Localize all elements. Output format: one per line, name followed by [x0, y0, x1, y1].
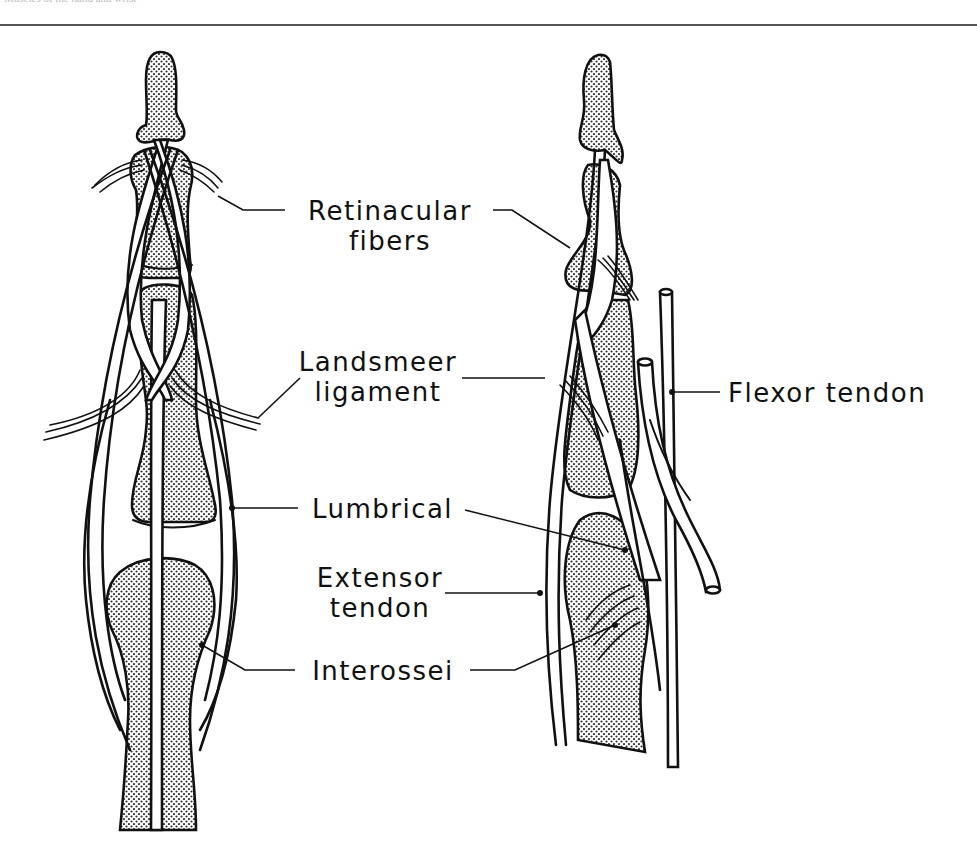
- label-extensor-line1: Extensor: [316, 563, 444, 593]
- label-extensor-tendon: Extensor tendon: [316, 563, 444, 623]
- label-landsmeer-line2: ligament: [298, 377, 458, 407]
- label-retinacular-fibers: Retinacular fibers: [290, 196, 490, 256]
- lateral-finger: [546, 55, 720, 767]
- label-extensor-line2: tendon: [316, 593, 444, 623]
- label-retinacular-line1: Retinacular: [290, 196, 490, 226]
- proximal-phalanx: [132, 285, 216, 522]
- flexor-tendon-tube-1: [660, 292, 678, 767]
- distal-phalanx: [137, 52, 184, 142]
- label-flexor-tendon: Flexor tendon: [728, 378, 926, 408]
- dorsal-finger: [44, 52, 260, 830]
- label-landsmeer-line1: Landsmeer: [298, 347, 458, 377]
- lateral-distal-phalanx: [580, 55, 623, 163]
- label-interossei: Interossei: [303, 656, 463, 686]
- label-retinacular-line2: fibers: [290, 226, 490, 256]
- label-landsmeer-ligament: Landsmeer ligament: [298, 347, 458, 407]
- label-lumbrical: Lumbrical: [305, 494, 460, 524]
- finger-anatomy-diagram: [0, 0, 977, 853]
